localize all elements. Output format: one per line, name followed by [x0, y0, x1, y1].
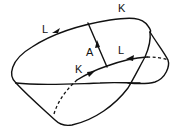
- label-K-inner: K: [75, 63, 83, 75]
- inner-curve-K-L: [77, 57, 147, 80]
- left-lower-side: [16, 32, 150, 125]
- label-L-left: L: [42, 23, 48, 35]
- hidden-curve-left: [54, 80, 77, 114]
- label-A-arc: A: [86, 46, 94, 58]
- label-K-top: K: [118, 2, 126, 14]
- surface-diagram: K L A L K: [0, 0, 182, 128]
- middle-edge: [16, 83, 140, 85]
- label-L-inner: L: [118, 44, 124, 56]
- arrow-K-inner-icon: [87, 71, 95, 77]
- hidden-curve-right: [147, 57, 168, 60]
- arrow-L-left-icon: [52, 28, 60, 33]
